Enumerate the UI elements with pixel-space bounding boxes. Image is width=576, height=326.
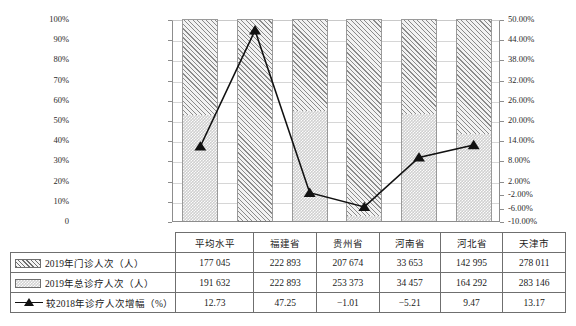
table-data-cell: 191 632 bbox=[175, 273, 254, 293]
table-data-cell: 9.47 bbox=[440, 293, 503, 313]
table-column-header: 河北省 bbox=[440, 233, 503, 253]
data-table: 平均水平福建省贵州省河南省河北省天津市2019年门诊人次（人）177 04522… bbox=[10, 232, 566, 313]
series-legend-label: 2019年门诊人次（人） bbox=[45, 259, 144, 269]
table-data-cell: 34 457 bbox=[379, 273, 440, 293]
table-corner-cell bbox=[11, 233, 176, 253]
table-data-cell: 222 893 bbox=[254, 273, 317, 293]
growth-line-marker bbox=[304, 188, 316, 197]
table-column-header: 平均水平 bbox=[175, 233, 254, 253]
growth-line-marker bbox=[194, 141, 206, 150]
table-data-cell: 142 995 bbox=[440, 253, 503, 273]
table-row-label-cell: 2019年总诊疗人次（人） bbox=[11, 273, 176, 293]
series-legend-label: 较2018年诊疗人次增幅（%） bbox=[46, 299, 173, 309]
table-data-cell: 13.17 bbox=[503, 293, 566, 313]
growth-line-marker bbox=[468, 140, 480, 149]
table-row: 2019年总诊疗人次（人）191 632222 893253 37334 457… bbox=[11, 273, 566, 293]
right-axis-tick-label: 50.00% bbox=[508, 15, 534, 24]
growth-line-series bbox=[173, 21, 501, 223]
right-axis-tick-label: 2.00% bbox=[508, 177, 530, 186]
right-axis-tick-label: 20.00% bbox=[508, 116, 534, 125]
growth-line-marker bbox=[249, 25, 261, 34]
line-triangle-marker-icon bbox=[15, 298, 43, 308]
table-data-cell: 12.73 bbox=[175, 293, 254, 313]
growth-line-path bbox=[200, 30, 473, 207]
right-axis-tick-label: 32.00% bbox=[508, 76, 534, 85]
chart-page: 010%20%30%40%50%60%70%80%90%100% -10.00%… bbox=[0, 0, 576, 326]
series-legend-label: 2019年总诊疗人次（人） bbox=[45, 279, 154, 289]
table-column-header: 福建省 bbox=[254, 233, 317, 253]
hatch-swatch-icon bbox=[15, 259, 41, 268]
table-data-cell: 33 653 bbox=[379, 253, 440, 273]
table-column-header: 贵州省 bbox=[317, 233, 380, 253]
table-data-cell: 253 373 bbox=[317, 273, 380, 293]
right-axis-tick-label: 38.00% bbox=[508, 55, 534, 64]
right-axis-tick-label: -2.00% bbox=[508, 190, 533, 199]
table-data-cell: 207 674 bbox=[317, 253, 380, 273]
table-data-cell: 177 045 bbox=[175, 253, 254, 273]
right-axis-tick-label: 44.00% bbox=[508, 35, 534, 44]
table-column-header: 天津市 bbox=[503, 233, 566, 253]
plot-area bbox=[172, 20, 500, 222]
table-data-cell: −1.01 bbox=[317, 293, 380, 313]
table-row: 较2018年诊疗人次增幅（%）12.7347.25−1.01−5.219.471… bbox=[11, 293, 566, 313]
table-data-cell: 278 011 bbox=[503, 253, 566, 273]
right-axis-tick-label: 14.00% bbox=[508, 136, 534, 145]
table-header-row: 平均水平福建省贵州省河南省河北省天津市 bbox=[11, 233, 566, 253]
right-axis-tick-label: 26.00% bbox=[508, 96, 534, 105]
table-row-label-cell: 2019年门诊人次（人） bbox=[11, 253, 176, 273]
table-row: 2019年门诊人次（人）177 045222 893207 67433 6531… bbox=[11, 253, 566, 273]
table-data-cell: 283 146 bbox=[503, 273, 566, 293]
table-column-header: 河南省 bbox=[379, 233, 440, 253]
table-data-cell: 222 893 bbox=[254, 253, 317, 273]
right-axis-tick-label: 8.00% bbox=[508, 156, 530, 165]
table-data-cell: −5.21 bbox=[379, 293, 440, 313]
table-data-cell: 164 292 bbox=[440, 273, 503, 293]
table-data-cell: 47.25 bbox=[254, 293, 317, 313]
right-axis-tick-label: -6.00% bbox=[508, 204, 533, 213]
dots-swatch-icon bbox=[15, 279, 41, 288]
right-axis-tick-label: -10.00% bbox=[508, 217, 537, 226]
table-row-label-cell: 较2018年诊疗人次增幅（%） bbox=[11, 293, 176, 313]
